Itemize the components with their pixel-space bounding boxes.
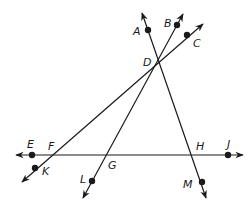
label-g: G (108, 159, 117, 172)
point-k (32, 165, 38, 171)
point-c (184, 32, 190, 38)
lines-group (16, 13, 243, 198)
line-BL (83, 14, 183, 198)
point-a (145, 27, 151, 33)
points-group (29, 22, 231, 185)
point-b (174, 22, 180, 28)
label-l: L (80, 173, 86, 186)
label-h: H (196, 140, 204, 153)
label-k: K (42, 165, 50, 178)
label-c: C (193, 37, 201, 50)
label-f: F (48, 140, 55, 153)
label-d: D (143, 56, 151, 69)
label-b: B (164, 17, 172, 30)
label-a: A (132, 25, 141, 38)
geometry-diagram: ABCDEFGHJKLM (0, 0, 252, 216)
label-m: M (183, 178, 193, 191)
label-e: E (27, 138, 34, 151)
labels-group: ABCDEFGHJKLM (27, 17, 230, 191)
point-j (225, 152, 231, 158)
label-j: J (225, 138, 230, 151)
point-e (29, 152, 35, 158)
point-l (89, 178, 95, 184)
point-m (199, 179, 205, 185)
